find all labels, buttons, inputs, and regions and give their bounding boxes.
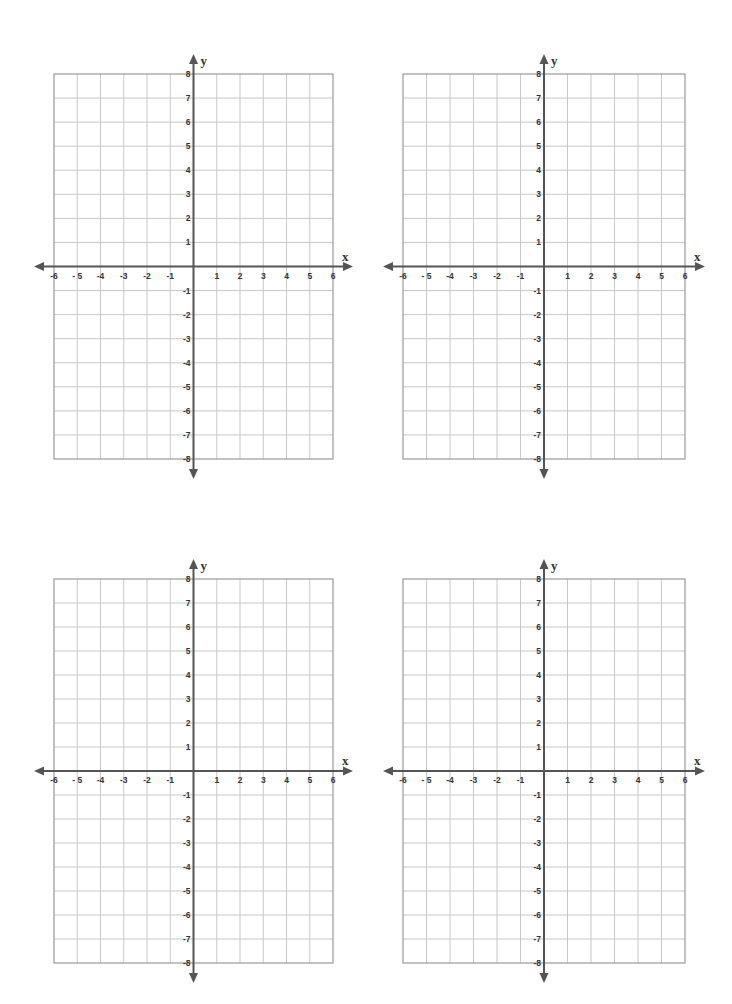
x-tick-label: -2 [143,271,151,281]
x-tick-label: 6 [683,775,688,785]
arrow-up-icon [540,559,549,569]
y-tick-label: 8 [186,69,191,79]
x-tick-label: -4 [446,775,454,785]
y-tick-label: -5 [183,886,191,896]
y-axis-label: y [551,558,558,573]
y-tick-label: 5 [186,646,191,656]
arrow-left-icon [383,262,393,271]
y-axis-label: y [551,53,558,68]
y-tick-label: 7 [186,93,191,103]
x-axis-label: x [342,249,349,264]
coordinate-plane-bottom-left: xy-6- 5-4-3-2-112345687654321-1-2-3-4-5-… [34,559,353,983]
y-tick-label: -3 [183,334,191,344]
x-tick-label: 1 [214,775,219,785]
x-tick-label: 1 [214,271,219,281]
x-tick-label: 5 [307,775,312,785]
y-tick-label: -4 [183,862,191,872]
x-tick-label: 6 [331,775,336,785]
x-tick-label: -1 [517,271,525,281]
y-tick-label: 2 [536,213,541,223]
y-tick-label: -3 [533,838,541,848]
y-tick-label: 6 [186,622,191,632]
y-tick-label: -2 [183,310,191,320]
y-tick-label: 3 [536,694,541,704]
y-tick-label: -1 [533,790,541,800]
y-tick-label: -8 [533,454,541,464]
y-tick-label: 1 [536,237,541,247]
x-tick-label: 1 [565,271,570,281]
x-tick-label: -4 [446,271,454,281]
x-tick-label: -3 [120,775,128,785]
x-tick-label: - 5 [422,271,432,281]
y-tick-label: 5 [536,646,541,656]
y-tick-label: -7 [533,430,541,440]
x-tick-label: - 5 [72,775,82,785]
coordinate-plane-top-right: xy-6- 5-4-3-2-112345687654321-1-2-3-4-5-… [383,54,705,479]
x-tick-label: -6 [399,775,407,785]
x-tick-label: 6 [331,271,336,281]
x-tick-label: -1 [517,775,525,785]
arrow-left-icon [34,262,44,271]
x-tick-label: -4 [97,271,105,281]
y-tick-label: 2 [186,718,191,728]
x-tick-label: 6 [683,271,688,281]
x-axis-label: x [694,753,701,768]
y-tick-label: 6 [186,117,191,127]
y-tick-label: 4 [186,670,191,680]
arrow-left-icon [383,767,393,776]
y-tick-label: 1 [186,237,191,247]
x-tick-label: 4 [636,271,641,281]
y-tick-label: 5 [186,141,191,151]
y-tick-label: 3 [186,189,191,199]
x-tick-label: 5 [307,271,312,281]
x-tick-label: -3 [470,271,478,281]
y-tick-label: 4 [536,670,541,680]
y-tick-label: 8 [186,574,191,584]
y-tick-label: -1 [183,790,191,800]
y-tick-label: -3 [183,838,191,848]
y-tick-label: 8 [536,69,541,79]
x-tick-label: 3 [261,775,266,785]
y-tick-label: 1 [536,742,541,752]
x-tick-label: -1 [166,775,174,785]
x-tick-label: -6 [50,271,58,281]
coordinate-plane-top-left: xy-6- 5-4-3-2-112345687654321-1-2-3-4-5-… [34,54,353,479]
x-tick-label: 4 [284,775,289,785]
x-tick-label: 3 [261,271,266,281]
arrow-up-icon [189,54,198,64]
y-tick-label: 6 [536,117,541,127]
x-tick-label: 4 [636,775,641,785]
x-tick-label: 2 [589,271,594,281]
x-tick-label: 1 [565,775,570,785]
y-tick-label: -4 [533,358,541,368]
y-tick-label: -2 [533,310,541,320]
x-tick-label: -3 [120,271,128,281]
y-tick-label: -7 [183,430,191,440]
y-tick-label: 4 [186,165,191,175]
arrow-up-icon [189,559,198,569]
x-tick-label: 3 [612,775,617,785]
y-tick-label: 4 [536,165,541,175]
x-tick-label: 2 [589,775,594,785]
x-tick-label: -6 [50,775,58,785]
x-tick-label: 2 [238,775,243,785]
y-tick-label: -5 [533,886,541,896]
x-tick-label: -2 [493,271,501,281]
y-tick-label: 8 [536,574,541,584]
x-tick-label: 5 [659,271,664,281]
y-axis-label: y [201,558,208,573]
x-tick-label: - 5 [422,775,432,785]
y-tick-label: 7 [536,598,541,608]
y-tick-label: 6 [536,622,541,632]
x-tick-label: 4 [284,271,289,281]
y-axis-label: y [201,53,208,68]
x-tick-label: 2 [238,271,243,281]
x-tick-label: -4 [97,775,105,785]
y-tick-label: -1 [533,286,541,296]
x-tick-label: 5 [659,775,664,785]
y-tick-label: 7 [186,598,191,608]
y-tick-label: -1 [183,286,191,296]
x-tick-label: -6 [399,271,407,281]
x-tick-label: -3 [470,775,478,785]
arrow-up-icon [540,54,549,64]
